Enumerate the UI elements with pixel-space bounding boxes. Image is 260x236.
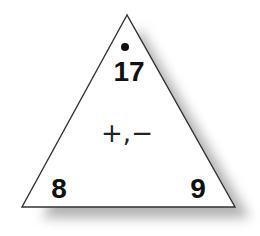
fact-triangle-diagram: 17 +,− 8 9: [0, 0, 260, 236]
operations-label: +,−: [101, 118, 153, 148]
top-number: 17: [113, 56, 144, 87]
bottom-right-number: 9: [190, 173, 206, 204]
bottom-left-number: 8: [51, 173, 67, 204]
top-marker-dot: [121, 43, 129, 51]
